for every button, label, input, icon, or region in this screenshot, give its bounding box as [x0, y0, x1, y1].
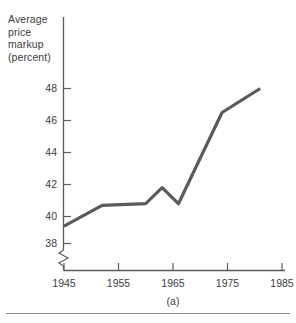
y-tick-label-42: 42 [45, 178, 57, 190]
figure-panel: Average price markup (percent) 48 46 44 … [0, 0, 296, 323]
y-tick-label-38: 38 [45, 237, 57, 249]
data-series-line [64, 89, 260, 227]
y-axis-title-line-4: (percent) [8, 51, 60, 64]
y-axis-title: Average price markup (percent) [8, 13, 60, 63]
x-tick-label-1985: 1985 [270, 277, 294, 289]
x-tick-label-1955: 1955 [107, 277, 131, 289]
y-tick-label-44: 44 [45, 146, 57, 158]
y-tick-label-46: 46 [45, 114, 57, 126]
y-axis-title-line-1: Average [8, 13, 60, 26]
y-axis-title-line-3: markup [8, 38, 60, 51]
bottom-divider [6, 313, 290, 314]
y-axis-title-line-2: price [8, 26, 60, 39]
figure-caption: (a) [167, 295, 180, 307]
y-tick-label-48: 48 [45, 82, 57, 94]
x-tick-label-1975: 1975 [216, 277, 240, 289]
x-tick-label-1945: 1945 [52, 277, 76, 289]
y-tick-label-40: 40 [45, 210, 57, 222]
x-tick-label-1965: 1965 [161, 277, 185, 289]
